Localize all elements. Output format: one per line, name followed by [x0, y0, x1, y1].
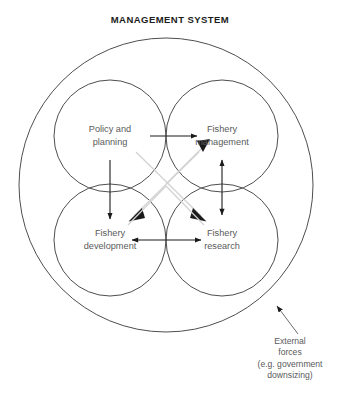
- node-label-research-line-2: research: [170, 240, 274, 253]
- external-forces-callout: External forces (e.g. government downsiz…: [240, 336, 340, 382]
- node-label-policy: Policy and planning: [58, 123, 162, 148]
- node-label-management-line-1: Fishery: [170, 123, 274, 136]
- external-forces-line-2: forces: [240, 347, 340, 358]
- node-label-policy-line-2: planning: [58, 136, 162, 149]
- external-forces-leader-line: [277, 306, 298, 334]
- fishery-management-system-diagram: MANAGEMENT SYSTEM: [0, 0, 340, 402]
- node-label-management: Fishery management: [170, 123, 274, 148]
- node-label-research: Fishery research: [170, 227, 274, 252]
- node-label-development-line-1: Fishery: [58, 227, 162, 240]
- node-label-development-line-2: development: [58, 240, 162, 253]
- node-label-management-line-2: management: [170, 136, 274, 149]
- external-forces-line-3: (e.g. government: [240, 359, 340, 370]
- node-label-development: Fishery development: [58, 227, 162, 252]
- external-forces-line-1: External: [240, 336, 340, 347]
- arrow-diagonal-cross-lower-right: [166, 186, 204, 225]
- external-forces-line-4: downsizing): [240, 370, 340, 381]
- arrow-diagonal-cross-lower-left: [128, 186, 166, 225]
- node-label-research-line-1: Fishery: [170, 227, 274, 240]
- node-label-policy-line-1: Policy and: [58, 123, 162, 136]
